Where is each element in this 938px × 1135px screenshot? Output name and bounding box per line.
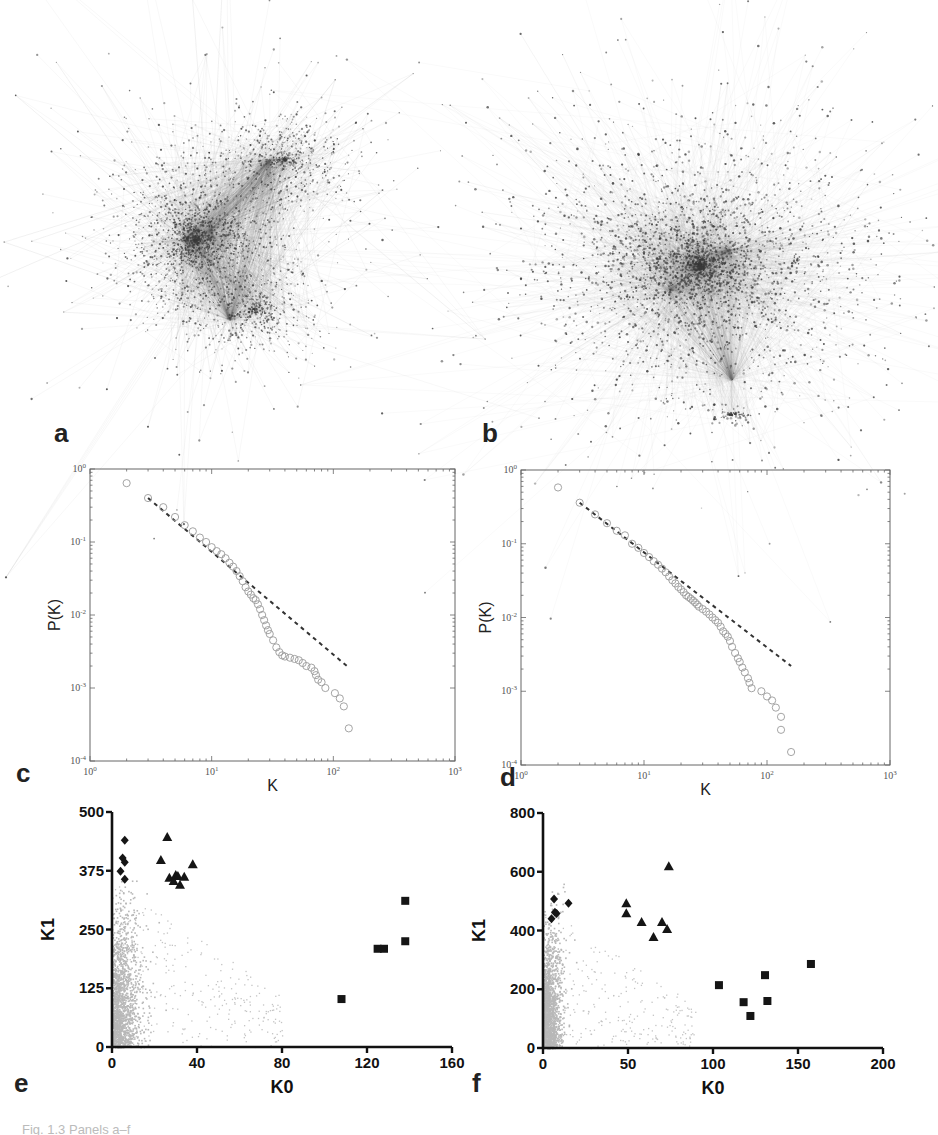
power-law-fit-line	[148, 498, 349, 668]
y-tick-label: 200	[510, 980, 535, 997]
y-tick-label: 10-2	[70, 608, 86, 620]
plot-frame	[521, 470, 890, 765]
y-axis-label: K1	[38, 918, 58, 941]
x-tick-label: 103	[883, 769, 897, 781]
x-tick-label: 120	[354, 1054, 379, 1071]
x-tick-label: 101	[637, 769, 651, 781]
network-graph-a: a	[0, 0, 470, 460]
y-tick-label: 10-1	[70, 535, 86, 547]
x-tick-label: 100	[700, 1055, 725, 1072]
figure-caption: Fig. 1.3 Panels a–f	[22, 1122, 130, 1135]
x-tick-label: 100	[83, 765, 97, 777]
x-tick-label: 103	[448, 765, 462, 777]
panel-label-b: b	[482, 420, 498, 446]
highlighted-markers	[548, 861, 815, 1020]
y-tick-label: 10-3	[501, 684, 517, 696]
x-tick-label: 200	[870, 1055, 895, 1072]
data-points	[554, 484, 794, 756]
panel-label-a: a	[54, 420, 68, 446]
x-tick-label: 50	[620, 1055, 637, 1072]
x-axis-label: K0	[270, 1077, 293, 1097]
network-graph-b-canvas	[470, 0, 938, 460]
x-tick-label: 80	[274, 1054, 291, 1071]
highlighted-markers	[117, 832, 410, 1003]
x-tick-label: 150	[785, 1055, 810, 1072]
y-tick-label: 10-3	[70, 681, 86, 693]
y-tick-label: 0	[527, 1039, 535, 1056]
panel-label-c: c	[16, 760, 30, 786]
y-tick-label: 375	[79, 862, 104, 879]
y-tick-label: 10-1	[501, 537, 517, 549]
chart-e-canvas: 040801201600125250375500K0K1	[0, 790, 470, 1120]
degree-distribution-chart-d: 10010110210310010-110-210-310-4KP(K) d	[470, 460, 938, 790]
y-tick-label: 10-4	[70, 754, 86, 766]
degree-distribution-chart-c: 10010110210310010-110-210-310-4KP(K) c	[0, 460, 470, 790]
y-axis-label: K1	[469, 919, 489, 942]
x-tick-label: 0	[108, 1054, 116, 1071]
k0-k1-scatter-f: 0501001502000200400600800K0K1 f	[470, 790, 938, 1120]
chart-d-canvas: 10010110210310010-110-210-310-4KP(K)	[470, 460, 938, 790]
y-tick-label: 10-2	[501, 611, 517, 623]
panel-label-e: e	[14, 1070, 28, 1096]
y-tick-label: 100	[504, 463, 518, 475]
x-tick-label: 160	[439, 1054, 464, 1071]
y-tick-label: 800	[510, 804, 535, 821]
data-points	[123, 480, 352, 732]
x-axis-label: K0	[701, 1078, 724, 1098]
y-tick-label: 600	[510, 863, 535, 880]
network-graph-a-canvas	[0, 0, 470, 460]
x-tick-label: 102	[760, 769, 774, 781]
x-tick-label: 40	[189, 1054, 206, 1071]
x-tick-label: 101	[205, 765, 219, 777]
y-tick-label: 100	[73, 462, 87, 474]
y-tick-label: 250	[79, 921, 104, 938]
background-node-cloud	[112, 876, 283, 1049]
chart-f-canvas: 0501001502000200400600800K0K1	[470, 790, 938, 1120]
y-tick-label: 500	[79, 803, 104, 820]
y-axis-label: P(K)	[477, 602, 494, 634]
y-tick-label: 0	[96, 1038, 104, 1055]
k0-k1-scatter-e: 040801201600125250375500K0K1 e	[0, 790, 470, 1120]
panel-label-f: f	[472, 1070, 481, 1096]
x-tick-label: 102	[327, 765, 341, 777]
network-graph-b: b	[470, 0, 938, 460]
plot-frame	[90, 469, 455, 761]
power-law-fit-line	[580, 503, 791, 666]
y-tick-label: 400	[510, 922, 535, 939]
chart-c-canvas: 10010110210310010-110-210-310-4KP(K)	[0, 460, 470, 790]
y-axis-label: P(K)	[46, 599, 63, 631]
y-tick-label: 125	[79, 979, 104, 996]
panel-label-d: d	[500, 764, 516, 790]
x-tick-label: 0	[539, 1055, 547, 1072]
background-node-cloud	[543, 884, 696, 1050]
x-tick-label: 100	[514, 769, 528, 781]
